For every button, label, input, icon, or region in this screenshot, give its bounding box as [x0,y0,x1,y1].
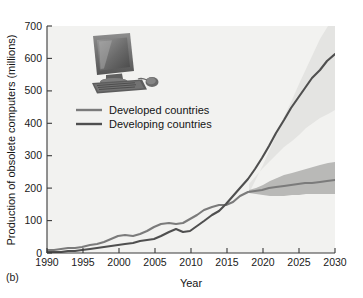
x-tick-label-2030: 2030 [323,256,347,268]
legend-label-developed: Developed countries [109,104,210,116]
y-tick-label-300: 300 [24,149,42,161]
x-tick-label-1990: 1990 [35,256,59,268]
legend-label-developing: Developing countries [109,118,212,130]
x-tick-label-2005: 2005 [143,256,167,268]
x-tick-label-2020: 2020 [251,256,275,268]
y-tick-label-700: 700 [24,20,42,32]
y-tick-label-200: 200 [24,182,42,194]
y-tick-label-100: 100 [24,214,42,226]
obsolete-computers-line-chart: 0 100 200 300 400 500 600 700 1990 1995 … [0,0,363,298]
y-axis-title: Production of obsolete computers (millio… [5,35,17,246]
y-tick-label-400: 400 [24,117,42,129]
x-tick-label-2000: 2000 [107,256,131,268]
panel-label: (b) [6,271,19,283]
x-axis-title: Year [180,277,203,289]
x-tick-label-2025: 2025 [287,256,311,268]
x-tick-label-2015: 2015 [215,256,239,268]
x-tick-label-2010: 2010 [179,256,203,268]
x-axis-tick-labels: 1990 1995 2000 2005 2010 2015 2020 2025 … [35,256,347,268]
figure-panel-b: 0 100 200 300 400 500 600 700 1990 1995 … [0,0,363,298]
y-tick-label-600: 600 [24,52,42,64]
y-tick-label-500: 500 [24,84,42,96]
x-tick-label-1995: 1995 [71,256,95,268]
